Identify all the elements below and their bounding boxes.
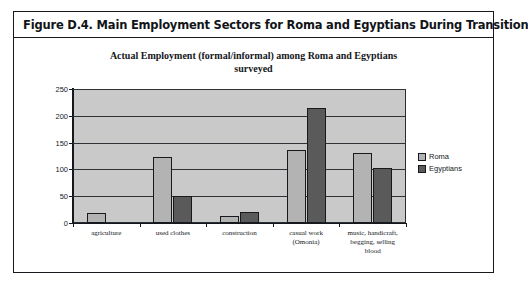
y-tick-mark-150 <box>69 143 73 144</box>
legend-label-egyptians: Egyptians <box>429 164 462 173</box>
x-tick-mark-1 <box>140 223 141 227</box>
figure-caption: Figure D.4. Main Employment Sectors for … <box>14 12 493 38</box>
x-axis-label-line: begging, selling <box>335 238 411 247</box>
y-tick-label-250: 250 <box>39 85 73 94</box>
y-tick-mark-250 <box>69 89 73 90</box>
legend-swatch-egyptians <box>418 165 426 173</box>
chart-title-line1: Actual Employment (formal/informal) amon… <box>110 50 397 61</box>
chart-legend: Roma Egyptians <box>418 152 478 176</box>
bar-roma-0 <box>87 213 106 223</box>
gridline-150 <box>73 143 406 144</box>
gridline-250 <box>73 89 406 90</box>
x-axis-label-2: construction <box>202 229 278 238</box>
x-axis-label-0: agriculture <box>68 229 144 238</box>
legend-item-roma: Roma <box>418 152 478 161</box>
x-axis-label-line: blood <box>335 247 411 256</box>
bar-roma-2 <box>220 216 239 223</box>
bar-roma-3 <box>287 150 306 223</box>
legend-item-egyptians: Egyptians <box>418 164 478 173</box>
x-tick-mark-0 <box>73 223 74 227</box>
bar-roma-1 <box>153 157 172 223</box>
x-axis-label-1: used clothes <box>135 229 211 238</box>
y-tick-mark-50 <box>69 196 73 197</box>
x-tick-mark-4 <box>339 223 340 227</box>
scan-margin <box>0 0 506 10</box>
y-tick-label-0: 0 <box>39 219 73 228</box>
y-tick-label-50: 50 <box>39 192 73 201</box>
figure-frame: Figure D.4. Main Employment Sectors for … <box>13 11 494 273</box>
x-axis-label-4: music, handicraft,begging, sellingblood <box>335 229 411 256</box>
bar-egyptians-1 <box>173 196 192 223</box>
y-tick-mark-200 <box>69 116 73 117</box>
x-axis-label-line: (Omonia) <box>268 238 344 247</box>
bar-egyptians-3 <box>307 108 326 223</box>
y-tick-label-200: 200 <box>39 111 73 120</box>
chart-title: Actual Employment (formal/informal) amon… <box>14 50 493 75</box>
y-tick-label-150: 150 <box>39 138 73 147</box>
bar-roma-4 <box>353 153 372 223</box>
gridline-200 <box>73 116 406 117</box>
bar-egyptians-2 <box>240 212 259 223</box>
plot-area: 050100150200250 agricultureused clothesc… <box>73 89 406 223</box>
figure-caption-text: Figure D.4. Main Employment Sectors for … <box>23 18 528 32</box>
legend-label-roma: Roma <box>429 152 449 161</box>
x-axis-label-line: used clothes <box>135 229 211 238</box>
y-tick-label-100: 100 <box>39 165 73 174</box>
bar-egyptians-4 <box>373 168 392 223</box>
x-axis-label-line: casual work <box>268 229 344 238</box>
y-axis-line <box>72 88 74 224</box>
x-tick-mark-end <box>406 223 407 227</box>
x-tick-mark-2 <box>206 223 207 227</box>
chart-area: Actual Employment (formal/informal) amon… <box>14 38 493 272</box>
legend-swatch-roma <box>418 153 426 161</box>
chart-title-line2: surveyed <box>14 63 493 76</box>
x-axis-label-3: casual work(Omonia) <box>268 229 344 247</box>
x-axis-label-line: agriculture <box>68 229 144 238</box>
x-axis-label-line: construction <box>202 229 278 238</box>
x-axis-label-line: music, handicraft, <box>335 229 411 238</box>
x-tick-mark-3 <box>273 223 274 227</box>
y-tick-mark-100 <box>69 169 73 170</box>
